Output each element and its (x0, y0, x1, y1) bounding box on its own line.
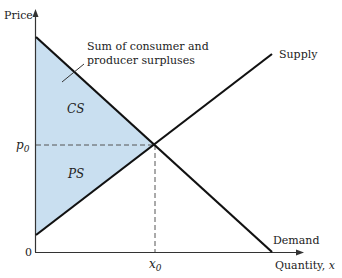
p0-label: p0 (16, 138, 30, 154)
demand-label: Demand (273, 234, 319, 247)
quantity-axis-label: Quantity, x (275, 259, 336, 272)
y-axis-arrow-icon (33, 9, 39, 17)
annotation-line-1: Sum of consumer and (87, 40, 209, 53)
supply-demand-diagram: Price 0 p0 x0 CS PS Sum of consumer and … (0, 0, 342, 278)
cs-label: CS (67, 102, 84, 116)
price-axis-label: Price (4, 9, 33, 22)
origin-label: 0 (25, 246, 32, 259)
supply-label: Supply (279, 48, 318, 61)
ps-label: PS (67, 167, 84, 181)
x0-label: x0 (149, 257, 162, 273)
annotation-line-2: producer surpluses (87, 54, 195, 67)
x-axis-arrow-icon (296, 250, 304, 256)
